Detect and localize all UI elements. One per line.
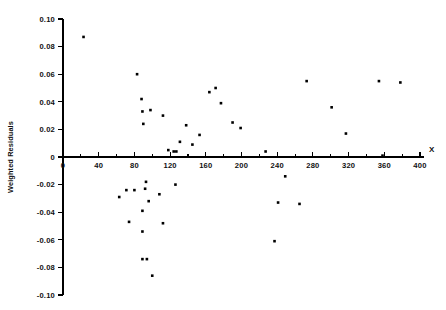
x-tick-label: 360 [378, 161, 391, 170]
x-tick-label: 280 [306, 161, 319, 170]
data-point [167, 149, 170, 152]
data-point [146, 258, 149, 261]
data-point [179, 141, 182, 144]
data-point [220, 102, 223, 105]
y-tick-label: 0.06 [39, 70, 55, 79]
data-point [136, 73, 139, 76]
plot-canvas: 040801201602002402803203604000.100.080.0… [0, 0, 446, 310]
scatter-plot-figure: 040801201602002402803203604000.100.080.0… [0, 0, 446, 310]
axes-group [63, 19, 424, 295]
x-tick-label: 200 [235, 161, 248, 170]
x-tick-label: 240 [271, 161, 284, 170]
data-point [284, 175, 287, 178]
y-tick-label: 0.10 [39, 15, 55, 24]
y-tick-label: 0 [51, 153, 55, 162]
data-point [141, 258, 144, 261]
data-point [381, 154, 384, 157]
data-point [305, 80, 308, 83]
data-point [214, 87, 217, 90]
y-tick-label: -0.10 [37, 291, 55, 300]
y-tick-label: -0.06 [37, 236, 55, 245]
x-tick-label: 160 [199, 161, 212, 170]
y-tick-label: -0.02 [37, 180, 55, 189]
data-point [140, 98, 143, 101]
x-tick-label: 320 [342, 161, 355, 170]
data-point [128, 221, 131, 224]
data-point [378, 80, 381, 83]
data-point [141, 210, 144, 213]
y-tick-label: -0.08 [37, 263, 55, 272]
data-point [239, 127, 242, 130]
data-point [273, 240, 276, 243]
data-point [149, 109, 152, 112]
data-point [151, 274, 154, 277]
data-point [277, 201, 280, 204]
x-tick-label: 80 [130, 161, 139, 170]
data-point [141, 110, 144, 113]
y-tick-label: -0.04 [37, 208, 56, 217]
data-point [142, 123, 145, 126]
data-point [147, 200, 150, 203]
data-point [298, 203, 301, 206]
data-point [185, 124, 188, 127]
data-point [191, 143, 194, 146]
data-point [208, 91, 211, 94]
data-point [330, 106, 333, 109]
y-tick-label: 0.02 [39, 125, 55, 134]
data-point [125, 189, 128, 192]
data-point [399, 81, 402, 84]
data-point [198, 134, 201, 137]
data-point [133, 189, 136, 192]
data-point [172, 150, 175, 153]
x-tick-label: 400 [413, 161, 426, 170]
data-point [231, 121, 234, 124]
data-point [118, 196, 121, 199]
x-axis-title: X [429, 145, 435, 154]
data-point [145, 181, 148, 184]
data-point [162, 114, 165, 117]
data-point [264, 150, 267, 153]
data-point [345, 132, 348, 135]
data-point [82, 36, 85, 39]
data-point [174, 183, 177, 186]
data-point [141, 230, 144, 233]
data-point [144, 187, 147, 190]
y-axis-title: Weighted Residuals [6, 121, 15, 193]
x-tick-label: 40 [94, 161, 103, 170]
y-tick-label: 0.08 [39, 42, 55, 51]
data-point [158, 193, 161, 196]
data-point [175, 150, 178, 153]
x-tick-label: 0 [61, 161, 65, 170]
y-tick-label: 0.04 [39, 98, 55, 107]
data-point [162, 222, 165, 225]
x-tick-label: 120 [163, 161, 176, 170]
